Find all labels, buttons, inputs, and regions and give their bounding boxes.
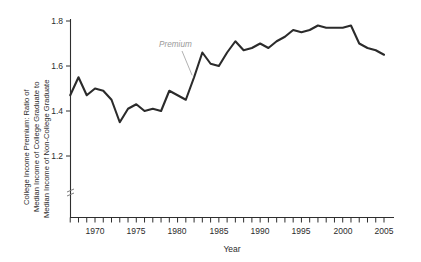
y-tick-label-1-4: 1.4 bbox=[51, 106, 63, 116]
x-tick-label-2000: 2000 bbox=[334, 226, 353, 236]
income-premium-line-chart: College Income Premium: Ratio of Median … bbox=[0, 0, 421, 262]
x-tick-label-2005: 2005 bbox=[375, 226, 394, 236]
chart-figure: College Income Premium: Ratio of Median … bbox=[0, 0, 421, 262]
y-tick-label-1-6: 1.6 bbox=[51, 61, 63, 71]
x-axis-ticks bbox=[70, 218, 384, 223]
y-axis-ticks bbox=[66, 21, 71, 156]
y-tick-label-1-2: 1.2 bbox=[51, 151, 63, 161]
x-tick-label-1985: 1985 bbox=[210, 226, 229, 236]
premium-annotation-leader-line bbox=[182, 51, 192, 75]
x-tick-label-1980: 1980 bbox=[168, 226, 187, 236]
y-axis-tick-labels: 1.8 1.6 1.4 1.2 bbox=[51, 16, 63, 161]
x-tick-label-1995: 1995 bbox=[292, 226, 311, 236]
y-axis-title-line-3: Median Income of Non-College Graduate bbox=[42, 80, 51, 218]
x-tick-label-1970: 1970 bbox=[86, 226, 105, 236]
premium-annotation-label: Premium bbox=[159, 40, 192, 49]
premium-series-line bbox=[70, 26, 384, 123]
y-axis-title-line-1: College Income Premium: Ratio of bbox=[22, 88, 31, 205]
x-axis-title: Year bbox=[223, 244, 240, 254]
y-tick-label-1-8: 1.8 bbox=[51, 16, 63, 26]
y-axis-title: College Income Premium: Ratio of Median … bbox=[22, 80, 51, 218]
x-tick-label-1990: 1990 bbox=[251, 226, 270, 236]
y-axis-title-line-2: Median Income of College Graduate to bbox=[32, 82, 41, 212]
x-tick-label-1975: 1975 bbox=[127, 226, 146, 236]
x-axis-tick-labels: 1970 1975 1980 1985 1990 1995 2000 2005 bbox=[86, 226, 394, 236]
